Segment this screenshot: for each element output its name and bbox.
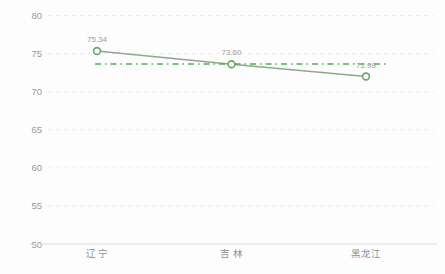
y-axis-tick-label: 80 xyxy=(31,10,42,21)
y-axis-tick-label: 70 xyxy=(31,86,42,97)
y-axis-tick-label: 65 xyxy=(31,124,42,135)
data-point-label: 73.60 xyxy=(221,48,242,57)
data-point-marker xyxy=(363,73,370,80)
data-point-label: 71.99 xyxy=(356,61,377,70)
y-axis-tick-label: 75 xyxy=(31,48,42,59)
x-axis-category-label: 吉 林 xyxy=(220,248,243,259)
line-chart: 50556065707580辽 宁吉 林黑龙江75.3473.6071.99 xyxy=(0,0,445,274)
data-point-marker xyxy=(94,48,101,55)
data-point-label: 75.34 xyxy=(87,35,108,44)
x-axis-category-label: 黑龙江 xyxy=(351,248,381,259)
data-point-marker xyxy=(228,61,235,68)
y-axis-tick-label: 60 xyxy=(31,162,42,173)
y-axis-tick-label: 55 xyxy=(31,200,42,211)
chart-container: 50556065707580辽 宁吉 林黑龙江75.3473.6071.99 xyxy=(0,0,445,274)
x-axis-category-label: 辽 宁 xyxy=(86,248,109,259)
